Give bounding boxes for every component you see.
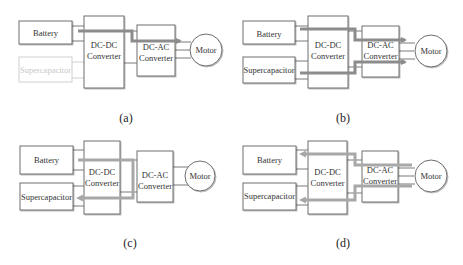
figure-canvas: Battery Supercapacitor DC-DC Converter D…	[0, 0, 463, 265]
panel-c: Battery Supercapacitor DC-DC Converter D…	[20, 141, 215, 250]
motor-label: Motor	[195, 45, 216, 55]
panel-caption: (b)	[336, 111, 350, 125]
dcac-label-line2: Converter	[139, 53, 173, 63]
dcdc-label-line1: DC-DC	[89, 167, 116, 177]
motor-label: Motor	[420, 46, 441, 56]
dcac-label-line2: Converter	[138, 181, 172, 191]
motor-label: Motor	[189, 171, 210, 181]
battery-label: Battery	[33, 28, 59, 38]
panel-caption: (d)	[336, 236, 350, 250]
panel-d: Battery Supercapacitor DC-DC Converter D…	[243, 141, 447, 250]
dcdc-label-line1: DC-DC	[315, 40, 342, 50]
panel-caption: (c)	[123, 236, 136, 250]
panel-a: Battery Supercapacitor DC-DC Converter D…	[19, 16, 222, 125]
supercapacitor-label: Supercapacitor	[20, 65, 71, 75]
battery-label: Battery	[34, 155, 60, 165]
dcac-label-line1: DC-AC	[143, 42, 170, 52]
panel-b: Battery Supercapacitor DC-DC Converter D…	[243, 16, 447, 125]
dcac-label-line2: Converter	[364, 51, 398, 61]
supercapacitor-label: Supercapacitor	[244, 191, 295, 201]
panel-caption: (a)	[119, 111, 132, 125]
dcdc-label-line1: DC-DC	[314, 167, 341, 177]
battery-label: Battery	[257, 155, 283, 165]
dcdc-label-line2: Converter	[311, 178, 345, 188]
dcdc-label-line2: Converter	[311, 51, 345, 61]
battery-label: Battery	[256, 29, 282, 39]
dcac-label-line1: DC-AC	[142, 170, 169, 180]
dcdc-label-line2: Converter	[87, 51, 121, 61]
dcdc-label-line1: DC-DC	[91, 40, 118, 50]
motor-label: Motor	[420, 171, 441, 181]
dcdc-label-line2: Converter	[85, 178, 119, 188]
supercapacitor-label: Supercapacitor	[21, 192, 72, 202]
supercapacitor-label: Supercapacitor	[244, 65, 295, 75]
